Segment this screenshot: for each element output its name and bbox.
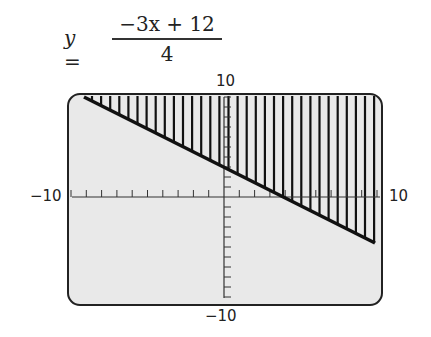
screen-frame xyxy=(68,94,382,305)
graph xyxy=(0,0,431,337)
